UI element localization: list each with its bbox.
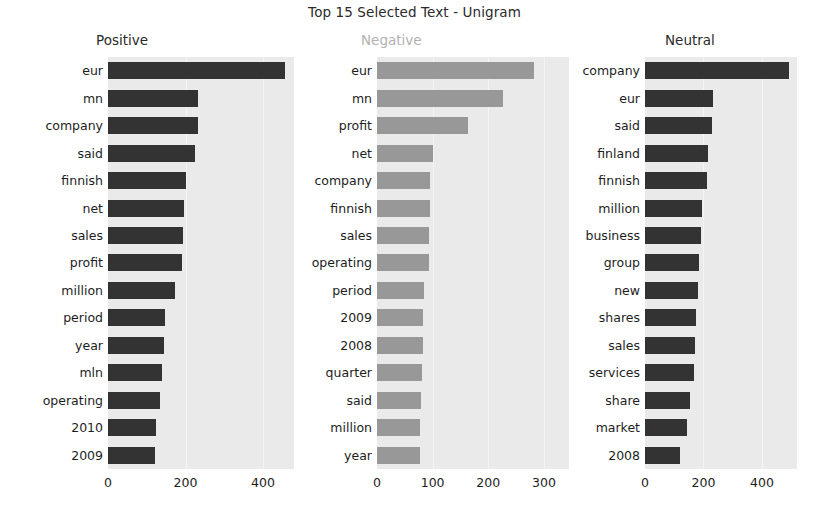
- bar: [108, 282, 175, 299]
- bar: [377, 309, 423, 326]
- panel-title-neutral: Neutral: [579, 32, 715, 48]
- panel-positive: Positive eurmncompanysaidfinnishnetsales…: [0, 32, 303, 528]
- bar-label: shares: [579, 310, 645, 325]
- bar: [645, 90, 713, 107]
- bar-row: eur: [579, 84, 829, 111]
- bar-label: company: [0, 118, 108, 133]
- bar: [645, 227, 701, 244]
- bar: [377, 200, 430, 217]
- bar-label: 2010: [0, 420, 108, 435]
- bar: [645, 337, 695, 354]
- bar-label: profit: [0, 255, 108, 270]
- bar-row: sales: [0, 222, 303, 249]
- bar: [108, 200, 184, 217]
- bar-row: business: [579, 222, 829, 249]
- bar-label: market: [579, 420, 645, 435]
- bar-label: share: [579, 393, 645, 408]
- x-tick-label: 100: [421, 475, 445, 490]
- bar-label: finnish: [303, 201, 377, 216]
- bar-row: mn: [303, 84, 579, 111]
- bar-row: 2009: [303, 304, 579, 331]
- bar-label: mn: [303, 91, 377, 106]
- bar: [645, 282, 698, 299]
- bar-row: year: [0, 332, 303, 359]
- bar-label: said: [0, 146, 108, 161]
- bar-label: operating: [303, 255, 377, 270]
- bar-row: company: [303, 167, 579, 194]
- bar-label: 2009: [303, 310, 377, 325]
- bar-row: net: [303, 139, 579, 166]
- bar: [108, 447, 155, 464]
- bar-row: company: [579, 57, 829, 84]
- bar: [108, 254, 182, 271]
- bar-row: profit: [0, 249, 303, 276]
- x-tick-label: 400: [750, 475, 774, 490]
- bar-label: net: [0, 201, 108, 216]
- bar: [377, 364, 422, 381]
- bar-row: year: [303, 442, 579, 469]
- bar-row: operating: [303, 249, 579, 276]
- bar: [645, 392, 690, 409]
- bar: [645, 200, 702, 217]
- bar-label: group: [579, 255, 645, 270]
- bar-row: company: [0, 112, 303, 139]
- bar-row: period: [0, 304, 303, 331]
- bar-row: market: [579, 414, 829, 441]
- chart-title: Top 15 Selected Text - Unigram: [0, 4, 829, 20]
- bar: [377, 90, 503, 107]
- x-axis-positive: 0200400: [108, 469, 294, 493]
- bar-label: year: [303, 448, 377, 463]
- bar-label: eur: [303, 63, 377, 78]
- bar: [645, 364, 694, 381]
- bar: [645, 419, 687, 436]
- x-axis-neutral: 0200400: [645, 469, 797, 493]
- bar-row: net: [0, 194, 303, 221]
- x-tick-label: 200: [476, 475, 500, 490]
- bar: [645, 172, 707, 189]
- x-axis-negative: 0100200300: [377, 469, 569, 493]
- bar: [108, 364, 162, 381]
- bar-row: 2010: [0, 414, 303, 441]
- x-tick-label: 300: [532, 475, 556, 490]
- bar-label: new: [579, 283, 645, 298]
- bar-rows-negative: eurmnprofitnetcompanyfinnishsalesoperati…: [303, 57, 579, 469]
- bar-row: 2008: [579, 442, 829, 469]
- panels-container: Positive eurmncompanysaidfinnishnetsales…: [0, 32, 829, 528]
- bar: [108, 419, 156, 436]
- bar-label: 2008: [579, 448, 645, 463]
- bar: [645, 309, 696, 326]
- bar: [645, 254, 699, 271]
- bar-label: mn: [0, 91, 108, 106]
- bar-row: eur: [303, 57, 579, 84]
- x-tick-label: 200: [174, 475, 198, 490]
- bar-row: 2009: [0, 442, 303, 469]
- bar-label: million: [0, 283, 108, 298]
- bar-row: million: [0, 277, 303, 304]
- bar-rows-positive: eurmncompanysaidfinnishnetsalesprofitmil…: [0, 57, 303, 469]
- bar-label: eur: [579, 91, 645, 106]
- bar-row: group: [579, 249, 829, 276]
- chart-figure: Top 15 Selected Text - Unigram Positive …: [0, 0, 829, 528]
- bar-row: new: [579, 277, 829, 304]
- bar-label: net: [303, 146, 377, 161]
- bar-label: eur: [0, 63, 108, 78]
- bar-row: quarter: [303, 359, 579, 386]
- bar-row: finnish: [303, 194, 579, 221]
- bar-row: services: [579, 359, 829, 386]
- bar-label: million: [303, 420, 377, 435]
- bar-row: finland: [579, 139, 829, 166]
- bar-row: million: [303, 414, 579, 441]
- bar-label: period: [0, 310, 108, 325]
- bar-row: sales: [579, 332, 829, 359]
- bar: [108, 145, 195, 162]
- panel-negative: Negative eurmnprofitnetcompanyfinnishsal…: [303, 32, 579, 528]
- bar-label: finnish: [0, 173, 108, 188]
- bar-label: company: [303, 173, 377, 188]
- bar-row: mln: [0, 359, 303, 386]
- bar: [108, 172, 186, 189]
- bar-label: finnish: [579, 173, 645, 188]
- bar: [377, 392, 421, 409]
- bar: [108, 227, 183, 244]
- bar: [377, 172, 430, 189]
- bar-label: 2008: [303, 338, 377, 353]
